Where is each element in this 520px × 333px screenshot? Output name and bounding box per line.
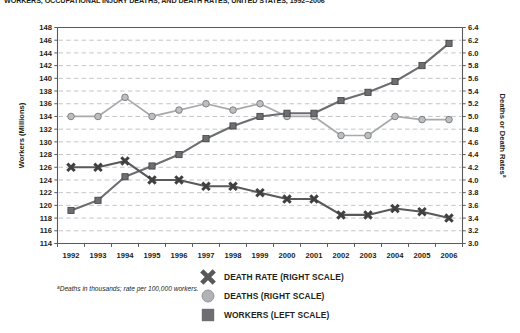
x-marker-icon (202, 271, 214, 283)
series-square (68, 40, 452, 213)
y2-tick-label: 6.2 (468, 36, 479, 45)
y-tick-label: 138 (39, 87, 52, 96)
x-tick-label: 1999 (252, 251, 269, 260)
legend-label: DEATH RATE (RIGHT SCALE) (224, 272, 344, 282)
y-tick-label: 140 (39, 74, 52, 83)
y2-tick-label: 3.6 (468, 201, 479, 210)
y2-tick-label: 4.0 (468, 176, 479, 185)
y2-tick-label: 3.2 (468, 226, 479, 235)
x-tick-label: 2000 (279, 251, 296, 260)
y-tick-label: 146 (39, 36, 52, 45)
x-tick-label: 1996 (171, 251, 188, 260)
y-tick-label: 118 (40, 214, 52, 223)
x-tick-label: 1993 (90, 251, 107, 260)
y2-tick-label: 3.8 (468, 188, 479, 197)
left-axis-title: Workers (Millions) (17, 102, 26, 168)
chart-container: 1141161181201221241261281301321341361381… (0, 0, 520, 333)
right-axis-title: Deaths or Death Ratesa (498, 94, 508, 178)
y2-tick-label: 6.4 (468, 23, 479, 32)
x-axis-tick-labels: 1992199319941995199619971998199920002001… (63, 251, 458, 260)
y-tick-label: 116 (40, 226, 52, 235)
y2-tick-label: 3.4 (468, 214, 479, 223)
circle-marker-icon (202, 290, 214, 302)
legend-item: DEATH RATE (RIGHT SCALE) (202, 271, 344, 283)
x-tick-label: 2006 (441, 251, 458, 260)
y-tick-label: 126 (39, 163, 52, 172)
y-tick-label: 128 (39, 150, 52, 159)
y2-tick-label: 6.0 (468, 49, 479, 58)
y-tick-label: 120 (39, 201, 52, 210)
y-tick-label: 124 (39, 176, 52, 185)
x-tick-label: 2001 (306, 251, 324, 260)
right-axis-tick-labels: 3.03.23.43.63.84.04.24.44.64.85.05.25.45… (468, 23, 479, 248)
x-tick-label: 2005 (414, 251, 432, 260)
y2-tick-label: 5.6 (468, 74, 479, 83)
legend: DEATH RATE (RIGHT SCALE)DEATHS (RIGHT SC… (202, 271, 344, 321)
y2-tick-label: 5.0 (468, 112, 479, 121)
y2-tick-label: 4.4 (468, 150, 479, 159)
x-tick-label: 1998 (225, 251, 242, 260)
right-axis-title-text: Deaths or Death Ratesa (498, 94, 508, 178)
y-tick-label: 114 (40, 239, 53, 248)
y-tick-label: 130 (39, 138, 52, 147)
x-tick-label: 1997 (198, 251, 215, 260)
y-tick-label: 144 (39, 49, 52, 58)
x-tick-label: 2002 (333, 251, 350, 260)
y-tick-label: 134 (39, 112, 52, 121)
square-marker-icon (202, 309, 214, 321)
y2-tick-label: 4.2 (468, 163, 479, 172)
y2-tick-label: 4.6 (468, 138, 479, 147)
left-axis-tick-labels: 1141161181201221241261281301321341361381… (39, 23, 52, 248)
chart-svg: 1141161181201221241261281301321341361381… (0, 0, 520, 333)
y2-tick-label: 5.4 (468, 87, 479, 96)
gridlines-group (59, 40, 462, 243)
y2-tick-label: 4.8 (468, 125, 479, 134)
legend-item: DEATHS (RIGHT SCALE) (202, 290, 325, 302)
x-tick-label: 1994 (117, 251, 135, 260)
x-tick-label: 1995 (144, 251, 162, 260)
x-tick-label: 2004 (387, 251, 405, 260)
footnote: aDeaths in thousands; rate per 100,000 w… (57, 285, 199, 294)
y2-tick-label: 5.8 (468, 61, 479, 70)
legend-label: DEATHS (RIGHT SCALE) (224, 291, 325, 301)
y-tick-label: 136 (39, 99, 52, 108)
legend-label: WORKERS (LEFT SCALE) (224, 310, 329, 320)
y-tick-label: 148 (39, 23, 52, 32)
y-tick-label: 142 (39, 61, 52, 70)
plot-frame (58, 28, 463, 244)
y-tick-label: 122 (39, 188, 52, 197)
series-layer (67, 40, 452, 222)
x-tick-label: 1992 (63, 251, 80, 260)
y2-tick-label: 3.0 (468, 239, 479, 248)
x-tick-label: 2003 (360, 251, 377, 260)
legend-item: WORKERS (LEFT SCALE) (202, 309, 330, 321)
y2-tick-label: 5.2 (468, 99, 479, 108)
y-tick-label: 132 (39, 125, 52, 134)
